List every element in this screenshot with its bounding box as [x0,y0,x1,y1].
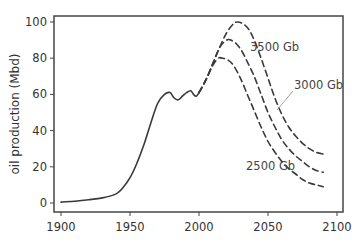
annotation-2500-gb: 2500 Gb [246,159,295,173]
y-tick-label: 40 [32,124,47,138]
x-tick-label: 2100 [322,220,351,234]
annotation-3000-leader-line [277,91,293,110]
plot-frame [54,16,343,212]
annotation-3000-gb: 3000 Gb [294,78,343,92]
series-3000-gb [199,39,323,172]
series-historical [61,91,199,202]
x-tick-label: 2050 [253,220,282,234]
x-tick-label: 1950 [115,220,144,234]
y-tick-label: 100 [25,15,47,29]
y-tick-label: 60 [32,87,47,101]
y-tick-label: 80 [32,51,47,65]
oil-production-chart: 020406080100 19001950200020502100 oil pr… [0,0,361,246]
y-tick-label: 0 [40,196,47,210]
x-axis-ticks: 19001950200020502100 [46,212,351,234]
x-tick-label: 1900 [46,220,75,234]
y-axis-ticks: 020406080100 [25,15,54,210]
y-axis-label: oil production (Mbd) [8,53,22,174]
y-tick-label: 20 [32,160,47,174]
annotation-3500-gb: 3500 Gb [250,40,299,54]
x-tick-label: 2000 [184,220,213,234]
